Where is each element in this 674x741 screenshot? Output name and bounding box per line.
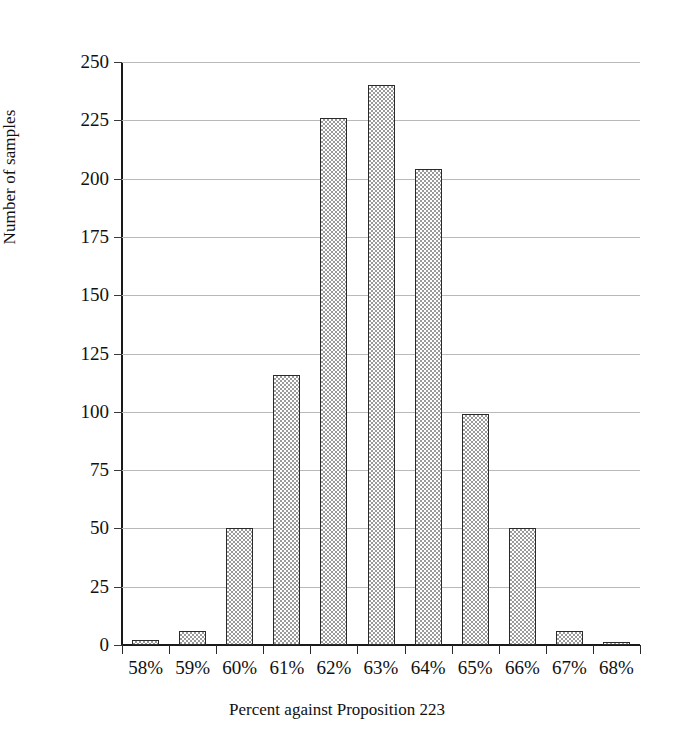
x-axis-tick-label: 62% [310, 657, 357, 685]
x-axis-tick-label: 64% [405, 657, 452, 685]
bar-slot [169, 62, 216, 645]
y-axis-tick [114, 237, 122, 238]
x-axis-tick [499, 645, 500, 654]
x-axis-tick [216, 645, 217, 654]
x-axis-tick [263, 645, 264, 654]
histogram-bar[interactable] [415, 169, 442, 645]
bar-slot [593, 62, 640, 645]
x-axis-tick [169, 645, 170, 654]
y-axis-tick [114, 62, 122, 63]
bar-slot [263, 62, 310, 645]
y-axis-tick [114, 179, 122, 180]
x-axis-tick [122, 645, 123, 654]
histogram-bar[interactable] [603, 642, 630, 645]
bars-group [122, 62, 640, 645]
histogram-bar[interactable] [132, 640, 159, 645]
histogram-bar[interactable] [509, 528, 536, 645]
x-axis-tick [640, 645, 641, 654]
histogram-bar[interactable] [556, 631, 583, 645]
y-axis-tick [114, 295, 122, 296]
x-axis-tick-label: 65% [452, 657, 499, 685]
x-axis-title: Percent against Proposition 223 [0, 700, 674, 720]
x-axis-tick-label: 63% [357, 657, 404, 685]
histogram-bar[interactable] [226, 528, 253, 645]
y-axis-tick [114, 470, 122, 471]
x-axis-tick [593, 645, 594, 654]
x-axis-tick-labels: 58%59%60%61%62%63%64%65%66%67%68% [122, 657, 640, 685]
x-axis-tick-label: 67% [546, 657, 593, 685]
x-axis-tick-label: 58% [122, 657, 169, 685]
y-axis-tick-label: 175 [49, 226, 109, 248]
bar-slot [357, 62, 404, 645]
y-axis-tick-label: 100 [49, 401, 109, 423]
y-axis-title: Number of samples [0, 77, 22, 277]
y-axis-tick-label: 150 [49, 284, 109, 306]
x-axis-tick [310, 645, 311, 654]
x-axis-tick-label: 59% [169, 657, 216, 685]
bar-slot [310, 62, 357, 645]
x-axis-tick-label: 66% [499, 657, 546, 685]
plot-area: 0255075100125150175200225250 [122, 62, 640, 645]
x-axis-tick-label: 61% [263, 657, 310, 685]
bar-slot [122, 62, 169, 645]
x-axis-tick-label: 60% [216, 657, 263, 685]
histogram-figure: Number of samples 0255075100125150175200… [0, 0, 674, 741]
y-axis-tick [114, 645, 122, 646]
histogram-bar[interactable] [368, 85, 395, 645]
y-axis-tick-label: 125 [49, 343, 109, 365]
y-axis-tick [114, 354, 122, 355]
x-axis-tick [357, 645, 358, 654]
x-axis-tick-label: 68% [593, 657, 640, 685]
y-axis-tick [114, 412, 122, 413]
y-axis-tick-label: 225 [49, 109, 109, 131]
y-axis-tick-label: 50 [49, 517, 109, 539]
y-axis-tick-label: 250 [49, 51, 109, 73]
x-axis-tick [452, 645, 453, 654]
bar-slot [546, 62, 593, 645]
bar-slot [405, 62, 452, 645]
x-axis-tick [546, 645, 547, 654]
y-axis-tick-label: 200 [49, 168, 109, 190]
y-axis-tick-label: 75 [49, 459, 109, 481]
bar-slot [452, 62, 499, 645]
y-axis-tick [114, 587, 122, 588]
histogram-bar[interactable] [179, 631, 206, 645]
histogram-bar[interactable] [273, 375, 300, 646]
histogram-bar[interactable] [462, 414, 489, 645]
x-axis-tick [405, 645, 406, 654]
y-axis-tick [114, 120, 122, 121]
y-axis-tick-label: 0 [49, 634, 109, 656]
bar-slot [216, 62, 263, 645]
y-axis-tick [114, 528, 122, 529]
bar-slot [499, 62, 546, 645]
y-axis-tick-label: 25 [49, 576, 109, 598]
histogram-bar[interactable] [320, 118, 347, 645]
